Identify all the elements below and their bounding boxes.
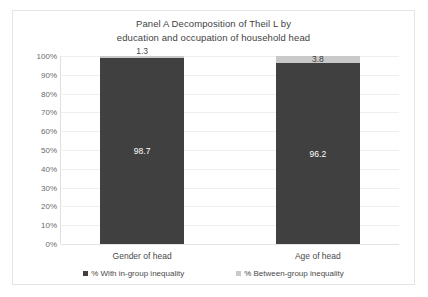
y-tick-label-10: 10% [13,221,57,230]
bar-segment-within-group-gender[interactable]: 98.7 [100,58,185,244]
bar-label-between-group-gender-wrap: 1.3 [100,45,185,56]
category-label-age-of-head: Age of head [250,251,385,261]
chart-title-line-1: Panel A Decomposition of Theil L by [13,17,414,31]
category-label-gender-of-head: Gender of head [75,251,210,261]
bar-label-within-group-age: 96.2 [310,149,327,159]
stacked-bar-age-of-head[interactable]: 3.8 96.2 [276,56,361,244]
column-group-gender-of-head: 98.7 1.3 Gender of head [100,56,185,244]
y-tick-label-60: 60% [13,127,57,136]
y-tick-label-50: 50% [13,146,57,155]
y-tick-label-40: 40% [13,164,57,173]
legend-label-within-group: % With in-group inequality [91,269,184,278]
y-tick-label-20: 20% [13,202,57,211]
column-group-age-of-head: 3.8 96.2 Age of head [276,56,361,244]
y-tick-label-100: 100% [13,52,57,61]
y-tick-label-70: 70% [13,108,57,117]
bar-segment-within-group-age[interactable]: 96.2 [276,63,361,244]
legend-item-between-group-inequality[interactable]: % Between-group inequality [236,269,344,278]
chart-legend: % With in-group inequality % Between-gro… [13,269,414,278]
y-tick-label-90: 90% [13,70,57,79]
y-tick-label-0: 0% [13,240,57,249]
gridline-0 [61,244,399,245]
legend-label-between-group: % Between-group inequality [244,269,344,278]
bar-label-within-group-gender: 98.7 [134,146,151,156]
legend-item-within-group-inequality[interactable]: % With in-group inequality [83,269,184,278]
bar-label-between-group-age: 3.8 [312,54,324,64]
bar-label-between-group-gender: 1.3 [136,46,148,56]
chart-frame: Panel A Decomposition of Theil L by educ… [12,10,415,285]
chart-title-line-2: education and occupation of household he… [13,31,414,45]
plot-area: 100% 90% 80% 70% 60% 50% 40% 30% 20% 10%… [61,56,399,244]
bar-segment-between-group-age[interactable]: 3.8 [276,56,361,63]
legend-swatch-within-group-icon [83,271,88,276]
chart-title: Panel A Decomposition of Theil L by educ… [13,17,414,44]
legend-swatch-between-group-icon [236,271,241,276]
y-tick-label-30: 30% [13,183,57,192]
y-tick-label-80: 80% [13,89,57,98]
stacked-bar-gender-of-head[interactable]: 98.7 1.3 [100,56,185,244]
